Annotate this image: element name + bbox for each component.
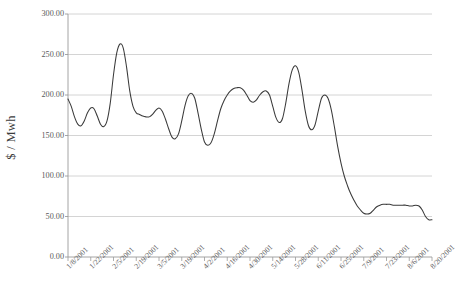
- x-axis-ticks: [68, 257, 432, 261]
- gridlines: [68, 14, 432, 217]
- data-line-price: [68, 44, 432, 220]
